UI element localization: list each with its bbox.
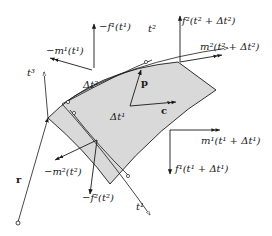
label-c: c [161, 105, 167, 116]
label-neg-m1: −m¹(t¹) [46, 45, 84, 56]
m2-plus-arrow [180, 55, 222, 62]
label-r: r [16, 174, 22, 185]
node-marker [144, 60, 147, 63]
label-t1: t¹ [136, 201, 144, 212]
label-neg-m2: −m²(t²) [44, 166, 82, 177]
label-f2-plus: f²(t² + Δt²) [181, 15, 236, 26]
origin-point [16, 221, 20, 225]
t3-axis [44, 72, 48, 118]
label-t2: t² [148, 23, 156, 34]
label-neg-f1: −f¹(t¹) [99, 21, 131, 32]
shell-element-diagram: −f¹(t¹) −m¹(t¹) t³ t² f²(t² + Δt²) m²(t²… [0, 0, 272, 236]
label-f1-plus: f¹(t¹ + Δt¹) [174, 163, 229, 174]
neg-m1-arrow [50, 58, 92, 70]
node-marker [66, 100, 69, 103]
node-marker [126, 174, 129, 177]
label-delta-t1: Δt¹ [109, 111, 125, 122]
label-t3: t³ [27, 67, 35, 78]
node-marker [72, 111, 75, 114]
label-delta-t2: Δt² [82, 79, 98, 90]
label-m1-plus: m¹(t¹ + Δt¹) [201, 135, 260, 146]
label-neg-f2: −f²(t²) [82, 192, 114, 203]
label-m2-plus: m²(t² + Δt²) [200, 41, 259, 52]
label-p: p [141, 77, 148, 88]
